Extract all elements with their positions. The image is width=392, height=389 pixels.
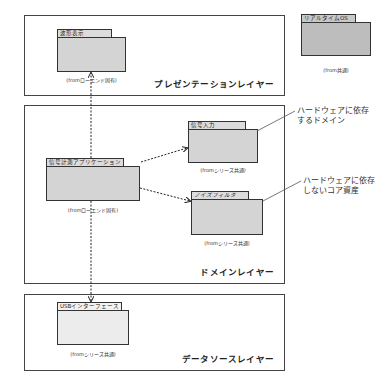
package-origin-label: (fromローエンド固有) [46,206,140,213]
package-signal-measurement-app[interactable]: 信号計測アプリケーション [46,158,140,201]
callout-hardware-independent: ハードウェアに依存 しないコア資産 [303,176,375,196]
package-body [46,166,140,201]
domain-layer-title: ドメインレイヤー [200,265,274,277]
datasource-layer-title: データソースレイヤー [182,352,274,364]
callout-line: ハードウェアに依存 [303,176,375,186]
package-origin-label: (fromシリーズ共通) [57,350,129,357]
package-body [57,37,126,72]
package-origin-label: (fromシリーズ共通) [191,239,263,246]
package-realtime-os[interactable]: リアルタイムOS [301,14,371,64]
package-signal-input[interactable]: 信号入力 [188,121,258,163]
callout-hardware-dependent: ハードウェアに依存 するドメイン [297,106,369,126]
package-tab: 信号計測アプリケーション [46,158,124,166]
package-usb-interface[interactable]: USBインターフェース [57,302,129,346]
package-body [191,199,263,235]
package-origin-label: (from共通) [301,66,371,73]
package-waveform-display[interactable]: 波形表示 [57,29,126,81]
package-noise-filter[interactable]: ノイズフィルタ [191,191,263,235]
package-tab: USBインターフェース [57,302,122,310]
package-tab: ノイズフィルタ [191,191,249,199]
callout-line: しないコア資産 [303,186,375,196]
package-origin-label: (fromシリーズ共通) [188,166,258,173]
package-tab: 信号入力 [188,121,246,129]
callout-line: ハードウェアに依存 [297,106,369,116]
package-body [57,310,129,345]
presentation-layer-title: プレゼンテーションレイヤー [154,77,274,89]
package-body [188,129,258,163]
package-tab: 波形表示 [57,29,112,37]
package-body [301,22,371,56]
package-origin-label: (fromローエンド固有) [57,76,126,83]
callout-line: するドメイン [297,116,369,126]
package-tab: リアルタイムOS [301,14,356,22]
